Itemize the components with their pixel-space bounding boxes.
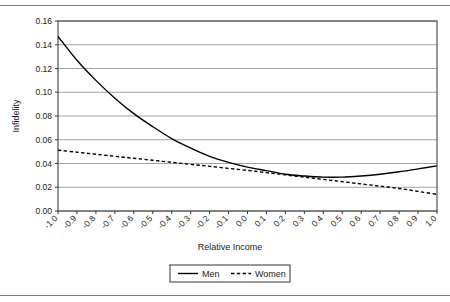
x-tick-label: 0.4 — [309, 213, 325, 229]
x-tick-label: 1.0 — [423, 213, 439, 229]
x-tick-label: -0.8 — [80, 213, 98, 231]
y-tick-label: 0.16 — [35, 16, 52, 26]
y-axis-title: Infidelity — [11, 99, 21, 133]
x-tick-label: -0.1 — [213, 213, 231, 231]
x-tick-label: -0.7 — [99, 213, 117, 231]
legend-label-women: Women — [255, 269, 286, 279]
series-line-women — [58, 150, 437, 194]
series-line-men — [58, 36, 437, 177]
x-tick-label: 0.9 — [404, 213, 420, 229]
x-tick-label: 0.6 — [347, 213, 363, 229]
y-tick-label: 0.00 — [35, 206, 52, 216]
x-tick-label: -0.6 — [118, 213, 136, 231]
infidelity-relative-income-line-chart: 0.000.020.040.060.080.100.120.140.16 -1.… — [0, 0, 450, 302]
figure-container: 0.000.020.040.060.080.100.120.140.16 -1.… — [0, 0, 450, 302]
y-tick-label: 0.14 — [35, 40, 52, 50]
x-tick-label: -0.9 — [61, 213, 79, 231]
x-tick-label: 0.5 — [328, 213, 344, 229]
y-tick-label: 0.10 — [35, 87, 52, 97]
legend-label-men: Men — [202, 269, 220, 279]
y-tick-label: 0.06 — [35, 135, 52, 145]
x-tick-label: -0.3 — [175, 213, 193, 231]
x-axis-title: Relative Income — [198, 242, 263, 252]
x-tick-label: 0.7 — [366, 213, 382, 229]
x-tick-label: 0.0 — [233, 213, 249, 229]
x-tick-label: -0.2 — [194, 213, 212, 231]
x-axis-tick-labels: -1.0-0.9-0.8-0.7-0.6-0.5-0.4-0.3-0.2-0.1… — [42, 211, 439, 231]
x-tick-label: 0.2 — [271, 213, 287, 229]
y-gridlines — [55, 21, 437, 211]
chart-legend: Men Women — [170, 265, 290, 282]
y-tick-label: 0.12 — [35, 64, 52, 74]
y-axis-tick-labels: 0.000.020.040.060.080.100.120.140.16 — [35, 16, 52, 216]
x-tick-label: 0.8 — [385, 213, 401, 229]
x-tick-label: 0.3 — [290, 213, 306, 229]
x-tick-label: -0.4 — [156, 213, 174, 231]
y-tick-label: 0.02 — [35, 182, 52, 192]
x-tick-label: -0.5 — [137, 213, 155, 231]
y-tick-label: 0.08 — [35, 111, 52, 121]
x-tick-label: 0.1 — [252, 213, 268, 229]
y-tick-label: 0.04 — [35, 159, 52, 169]
